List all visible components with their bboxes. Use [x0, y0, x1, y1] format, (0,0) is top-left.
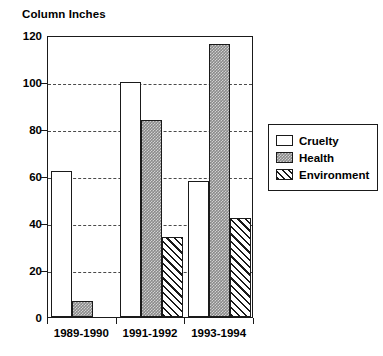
bar-cruelty-1991-1992 [120, 82, 141, 317]
x-tick-mark [47, 318, 48, 324]
legend-item: Health [276, 149, 369, 166]
y-tick-label: 100 [2, 77, 42, 89]
bar-health-1993-1994 [209, 44, 230, 317]
y-tick-label: 80 [2, 124, 42, 136]
bar-cruelty-1989-1990 [51, 171, 72, 317]
legend-label-environment: Environment [299, 169, 369, 181]
plot-area [47, 36, 253, 318]
x-tick-mark [253, 318, 254, 324]
bar-chart: Column Inches 020406080100120 1989-19901… [0, 0, 383, 356]
y-tick-label: 60 [2, 171, 42, 183]
y-tick-mark [41, 224, 47, 225]
y-tick-label: 0 [2, 312, 42, 324]
bar-cruelty-1993-1994 [188, 181, 209, 317]
y-tick-mark [41, 271, 47, 272]
x-tick-label: 1993-1994 [191, 327, 246, 339]
bar-health-1991-1992 [141, 120, 162, 317]
y-tick-label: 40 [2, 218, 42, 230]
y-tick-mark [41, 83, 47, 84]
legend-swatch-health-icon [276, 152, 293, 163]
y-tick-mark [41, 177, 47, 178]
legend-label-health: Health [299, 152, 334, 164]
y-axis-title: Column Inches [22, 8, 106, 20]
legend-swatch-cruelty-icon [276, 135, 293, 146]
x-tick-mark [184, 318, 185, 324]
legend: Cruelty Health Environment [268, 124, 378, 191]
bar-environment-1993-1994 [230, 218, 251, 317]
legend-item: Cruelty [276, 132, 369, 149]
legend-swatch-environment-icon [276, 169, 293, 180]
x-tick-mark [116, 318, 117, 324]
legend-item: Environment [276, 166, 369, 183]
x-tick-label: 1989-1990 [54, 327, 109, 339]
legend-label-cruelty: Cruelty [299, 135, 339, 147]
bar-environment-1991-1992 [162, 237, 183, 317]
y-tick-label: 120 [2, 30, 42, 42]
y-tick-label: 20 [2, 265, 42, 277]
bar-health-1989-1990 [72, 301, 93, 317]
plot-inner [48, 37, 252, 317]
x-tick-label: 1991-1992 [123, 327, 178, 339]
y-tick-mark [41, 130, 47, 131]
